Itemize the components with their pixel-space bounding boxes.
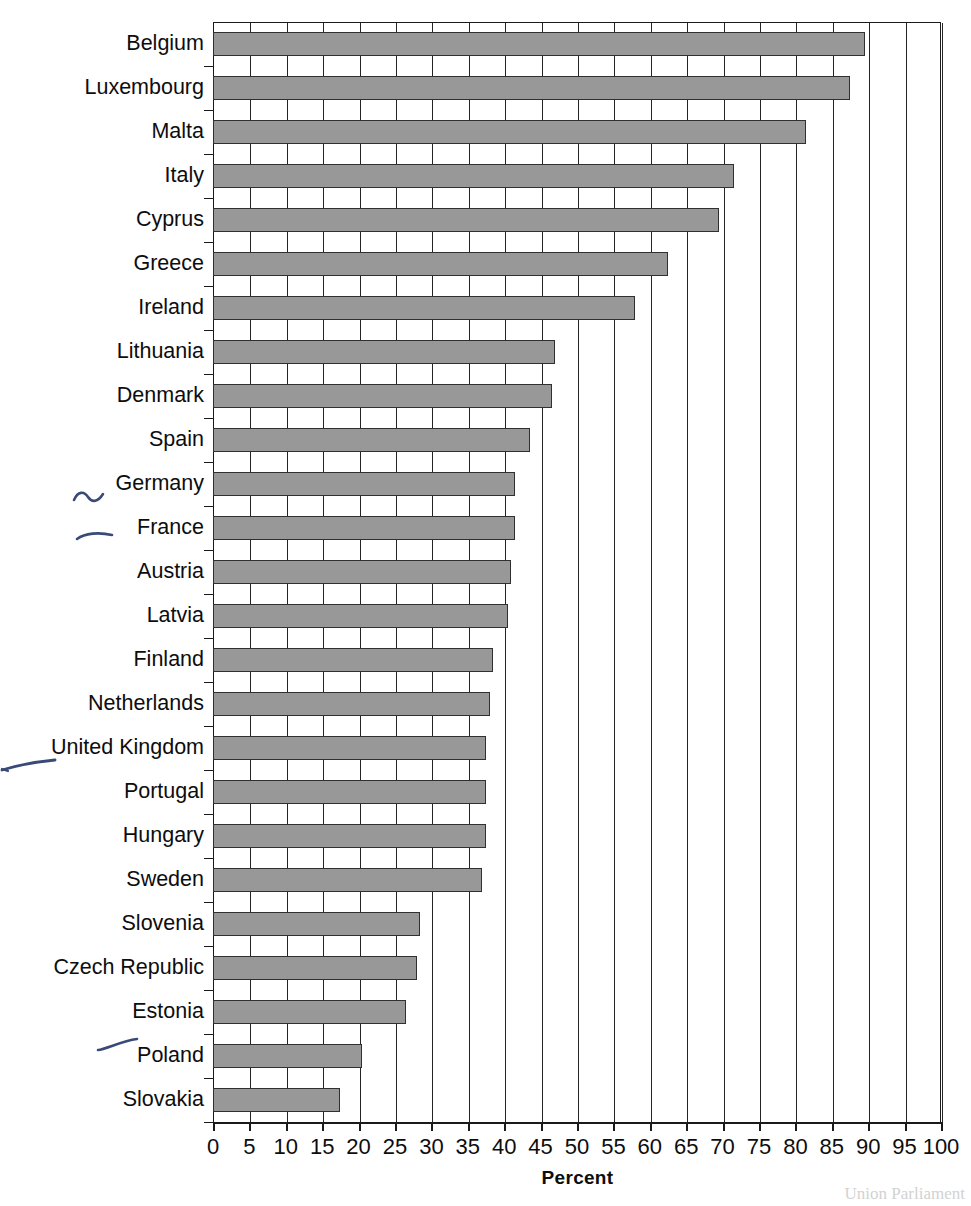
y-tick <box>204 770 213 771</box>
bar-row <box>213 814 941 858</box>
category-label: Estonia <box>0 999 204 1023</box>
category-label: Finland <box>0 647 204 671</box>
bars-group <box>213 22 941 1122</box>
bar <box>213 76 850 100</box>
x-tick <box>941 1122 943 1131</box>
bar-row <box>213 638 941 682</box>
y-tick <box>204 374 213 375</box>
category-label: France <box>0 515 204 539</box>
bar <box>213 340 555 364</box>
category-label: Portugal <box>0 779 204 803</box>
category-label: Germany <box>0 471 204 495</box>
category-label: Austria <box>0 559 204 583</box>
bar-row <box>213 286 941 330</box>
bar-row <box>213 374 941 418</box>
footer-ghost-text: Union Parliament <box>845 1184 965 1204</box>
y-tick <box>204 1034 213 1035</box>
bar-row <box>213 506 941 550</box>
bar <box>213 296 635 320</box>
category-label: Poland <box>0 1043 204 1067</box>
category-label: Lithuania <box>0 339 204 363</box>
x-axis-title: Percent <box>213 1167 942 1189</box>
bar <box>213 1044 362 1068</box>
category-label: Slovenia <box>0 911 204 935</box>
bar-row <box>213 418 941 462</box>
x-tick <box>686 1122 688 1131</box>
y-tick <box>204 198 213 199</box>
y-tick <box>204 858 213 859</box>
y-tick <box>204 154 213 155</box>
category-label: Latvia <box>0 603 204 627</box>
bar-row <box>213 330 941 374</box>
bar <box>213 428 530 452</box>
y-tick <box>204 682 213 683</box>
category-label: Spain <box>0 427 204 451</box>
x-tick <box>868 1122 870 1131</box>
bar <box>213 824 486 848</box>
y-tick <box>204 506 213 507</box>
y-tick <box>204 66 213 67</box>
bar-row <box>213 902 941 946</box>
y-tick <box>204 726 213 727</box>
y-tick <box>204 1122 213 1123</box>
y-tick <box>204 902 213 903</box>
y-tick <box>204 638 213 639</box>
x-tick <box>322 1122 324 1131</box>
bar <box>213 604 508 628</box>
category-label: Netherlands <box>0 691 204 715</box>
category-label: Czech Republic <box>0 955 204 979</box>
bar-row <box>213 990 941 1034</box>
bar <box>213 1000 406 1024</box>
bar <box>213 164 734 188</box>
x-tick <box>650 1122 652 1131</box>
category-label: Slovakia <box>0 1087 204 1111</box>
y-tick <box>204 242 213 243</box>
bar-row <box>213 154 941 198</box>
x-tick <box>249 1122 251 1131</box>
category-axis-labels: BelgiumLuxembourgMaltaItalyCyprusGreeceI… <box>0 22 213 1122</box>
bar <box>213 252 668 276</box>
category-label: Denmark <box>0 383 204 407</box>
y-tick <box>204 550 213 551</box>
category-label: Belgium <box>0 31 204 55</box>
category-label: Luxembourg <box>0 75 204 99</box>
bar-row <box>213 1078 941 1122</box>
bar-row <box>213 770 941 814</box>
bar <box>213 912 420 936</box>
bar-row <box>213 682 941 726</box>
x-tick <box>213 1122 215 1131</box>
bar-row <box>213 726 941 770</box>
x-tick <box>613 1122 615 1131</box>
bar-row <box>213 594 941 638</box>
bar <box>213 208 719 232</box>
bar <box>213 868 482 892</box>
bar <box>213 956 417 980</box>
bar-row <box>213 946 941 990</box>
bar <box>213 516 515 540</box>
bar-row <box>213 66 941 110</box>
y-tick <box>204 990 213 991</box>
bar <box>213 560 511 584</box>
y-tick <box>204 110 213 111</box>
bar-row <box>213 110 941 154</box>
bar <box>213 120 806 144</box>
y-tick <box>204 418 213 419</box>
bar <box>213 780 486 804</box>
bar-row <box>213 550 941 594</box>
category-label: Cyprus <box>0 207 204 231</box>
horizontal-bar-chart: BelgiumLuxembourgMaltaItalyCyprusGreeceI… <box>0 0 971 1206</box>
y-tick <box>204 594 213 595</box>
bar-row <box>213 242 941 286</box>
bar <box>213 32 865 56</box>
x-tick <box>541 1122 543 1131</box>
x-tick <box>795 1122 797 1131</box>
x-tick <box>431 1122 433 1131</box>
bar <box>213 1088 340 1112</box>
x-tick <box>286 1122 288 1131</box>
y-tick <box>204 946 213 947</box>
x-tick <box>832 1122 834 1131</box>
category-label: Ireland <box>0 295 204 319</box>
x-tick <box>759 1122 761 1131</box>
x-tick-label: 100 <box>917 1134 965 1160</box>
bar <box>213 384 552 408</box>
